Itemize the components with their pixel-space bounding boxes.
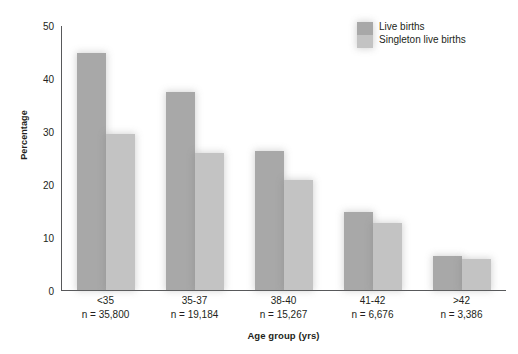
- x-axis-tick-label: <35: [61, 294, 150, 308]
- x-axis-tick-label: >42: [417, 294, 506, 308]
- x-axis-sample-size: n = 15,267: [239, 308, 328, 322]
- bar: [106, 134, 135, 290]
- x-axis-labels: <35n = 35,80035-37n = 19,18438-40n = 15,…: [61, 294, 506, 322]
- legend-label: Live births: [379, 20, 466, 33]
- y-axis-tick-label: 30: [43, 127, 54, 138]
- x-axis-label-cell: 41-42n = 6,676: [328, 294, 417, 322]
- bar: [166, 92, 195, 290]
- bar-group: [255, 26, 313, 290]
- legend: Live birthsSingleton live births: [357, 20, 466, 48]
- bar: [284, 180, 313, 290]
- x-axis-tick-label: 38-40: [239, 294, 328, 308]
- bar: [373, 223, 402, 290]
- x-axis-sample-size: n = 19,184: [150, 308, 239, 322]
- legend-label: Singleton live births: [379, 33, 466, 46]
- x-axis-line: [61, 290, 506, 291]
- legend-swatch: [357, 35, 373, 48]
- bar-groups: [62, 26, 506, 290]
- bar: [433, 256, 462, 290]
- x-axis-title: Age group (yrs): [61, 330, 506, 341]
- legend-swatches: [357, 22, 373, 48]
- bar-group: [166, 26, 224, 290]
- bar-chart: Percentage 01020304050 <35n = 35,80035-3…: [0, 0, 518, 354]
- x-axis-label-cell: 38-40n = 15,267: [239, 294, 328, 322]
- bar-group: [433, 26, 491, 290]
- x-axis-label-cell: >42n = 3,386: [417, 294, 506, 322]
- bar-group: [77, 26, 135, 290]
- x-axis-sample-size: n = 35,800: [61, 308, 150, 322]
- y-axis-tick-label: 10: [43, 233, 54, 244]
- x-axis-label-cell: 35-37n = 19,184: [150, 294, 239, 322]
- x-axis-sample-size: n = 6,676: [328, 308, 417, 322]
- x-axis-sample-size: n = 3,386: [417, 308, 506, 322]
- legend-swatch: [357, 22, 373, 35]
- y-axis-tick-label: 40: [43, 74, 54, 85]
- y-axis-tick-label: 0: [48, 286, 54, 297]
- bar: [344, 212, 373, 290]
- legend-labels: Live birthsSingleton live births: [379, 20, 466, 46]
- plot-area: 01020304050: [61, 26, 506, 291]
- y-axis-title: Percentage: [19, 90, 29, 180]
- x-axis-tick-label: 41-42: [328, 294, 417, 308]
- x-axis-label-cell: <35n = 35,800: [61, 294, 150, 322]
- x-axis-tick-label: 35-37: [150, 294, 239, 308]
- bar: [77, 53, 106, 290]
- bar-group: [344, 26, 402, 290]
- bar: [195, 153, 224, 290]
- y-axis-tick-label: 50: [43, 21, 54, 32]
- y-axis-tick-label: 20: [43, 180, 54, 191]
- bar: [255, 151, 284, 290]
- bar: [462, 259, 491, 290]
